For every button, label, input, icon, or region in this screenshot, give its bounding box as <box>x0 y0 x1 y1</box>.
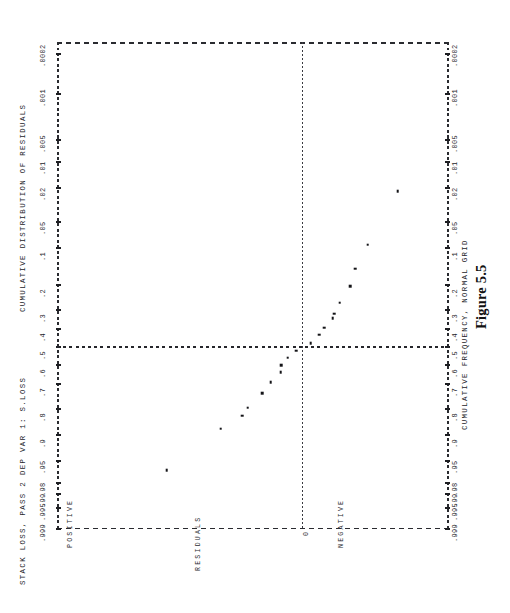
axis-tick-right-p995 <box>445 507 450 509</box>
axis-tick-left-p3 <box>56 309 61 311</box>
data-point <box>331 317 334 320</box>
median-reference-line <box>57 346 449 348</box>
axis-tick-left-p2 <box>56 284 61 286</box>
axis-tick-right-p8 <box>445 408 450 410</box>
data-point <box>241 414 244 417</box>
data-point <box>309 342 312 345</box>
tick-label-left-p9: .9 <box>40 439 47 448</box>
axis-tick-left-p4 <box>56 328 61 330</box>
axis-tick-right-p99 <box>445 493 450 495</box>
data-point <box>354 267 357 270</box>
tick-label-right-p0002: .0002 <box>452 44 459 67</box>
axis-tick-right-p2 <box>445 284 450 286</box>
axis-tick-right-p4 <box>445 328 450 330</box>
data-point <box>338 301 341 304</box>
tick-label-right-p4: .4 <box>452 333 459 342</box>
axis-tick-right-p01 <box>445 161 450 163</box>
tick-label-right-p02: .02 <box>452 187 459 201</box>
axis-tick-right-p001 <box>445 93 450 95</box>
tick-label-left-p7: .7 <box>40 388 47 397</box>
data-point <box>279 371 282 374</box>
tick-label-right-p2: .2 <box>452 289 459 298</box>
tick-label-left-p5: .5 <box>40 351 47 360</box>
tick-label-left-p95: .95 <box>40 460 47 474</box>
tick-label-right-p1: .1 <box>452 252 459 261</box>
plot-frame <box>57 42 449 529</box>
frame-top-edge <box>57 42 449 44</box>
data-point <box>295 349 298 352</box>
tick-label-left-p05: .05 <box>40 221 47 235</box>
right-axis-title: CUMULATIVE FREQUENCY, NORMAL GRID <box>462 239 469 430</box>
axis-tick-right-p9 <box>445 434 450 436</box>
axis-tick-right-p05 <box>445 221 450 223</box>
residual-label-zero: 0 <box>304 530 311 536</box>
axis-tick-left-p8 <box>56 408 61 410</box>
axis-tick-left-p7 <box>56 383 61 385</box>
data-point <box>318 334 321 337</box>
axis-tick-right-p999 <box>445 528 450 530</box>
tick-label-left-p2: .2 <box>40 289 47 298</box>
tick-label-left-p1: .1 <box>40 252 47 261</box>
axis-tick-right-p005 <box>445 139 450 141</box>
residual-label-positive: POSITIVE <box>68 499 75 548</box>
axis-tick-right-p6 <box>445 364 450 366</box>
tick-label-left-p999: .999 <box>40 524 47 542</box>
axis-tick-left-p98 <box>56 482 61 484</box>
axis-tick-left-p001 <box>56 93 61 95</box>
axis-tick-left-p005 <box>56 139 61 141</box>
axis-tick-right-p95 <box>445 460 450 462</box>
tick-label-left-p02: .02 <box>40 187 47 201</box>
tick-label-right-p5: .5 <box>452 351 459 360</box>
frame-bottom-edge <box>57 528 449 530</box>
axis-tick-right-p1 <box>445 247 450 249</box>
data-point <box>366 243 369 246</box>
axis-tick-right-p7 <box>445 383 450 385</box>
tick-label-left-p8: .8 <box>40 413 47 422</box>
axis-tick-left-p995 <box>56 507 61 509</box>
tick-label-left-p4: .4 <box>40 333 47 342</box>
data-point <box>247 406 250 409</box>
axis-tick-left-p1 <box>56 247 61 249</box>
figure-root: STACK LOSS, PASS 2 DEP VAR 1: S.LOSS CUM… <box>0 0 510 613</box>
axis-tick-left-p999 <box>56 528 61 530</box>
tick-label-right-p8: .8 <box>452 413 459 422</box>
axis-tick-right-p02 <box>445 187 450 189</box>
tick-label-left-p0002: .0002 <box>40 44 47 67</box>
axis-tick-left-p0002 <box>56 53 61 55</box>
tick-label-right-p95: .95 <box>452 460 459 474</box>
data-point <box>323 326 326 329</box>
tick-label-right-p9: .9 <box>452 439 459 448</box>
data-point <box>280 364 283 367</box>
tick-label-left-p001: .001 <box>40 89 47 107</box>
axis-tick-left-p01 <box>56 161 61 163</box>
axis-tick-left-p9 <box>56 434 61 436</box>
residual-label-negative: NEGATIVE <box>339 499 346 548</box>
axis-tick-left-p05 <box>56 221 61 223</box>
tick-label-right-p7: .7 <box>452 388 459 397</box>
left-axis-title: CUMULATIVE DISTRIBUTION OF RESIDUALS <box>20 104 27 312</box>
tick-label-right-p05: .05 <box>452 221 459 235</box>
data-point <box>349 285 352 288</box>
zero-residual-reference-line <box>302 42 303 529</box>
tick-label-left-p995: .995 <box>40 503 47 521</box>
figure-caption: Figure 5.5 <box>474 264 489 329</box>
axis-tick-right-p0002 <box>445 53 450 55</box>
data-point <box>333 312 336 315</box>
axis-tick-right-p98 <box>445 482 450 484</box>
axis-tick-right-p3 <box>445 309 450 311</box>
dataset-title: STACK LOSS, PASS 2 DEP VAR 1: S.LOSS <box>20 377 27 585</box>
axis-tick-left-p99 <box>56 493 61 495</box>
tick-label-left-p3: .3 <box>40 314 47 323</box>
axis-tick-left-p6 <box>56 364 61 366</box>
tick-label-right-p001: .001 <box>452 89 459 107</box>
tick-label-right-p3: .3 <box>452 314 459 323</box>
data-point <box>396 190 399 193</box>
tick-label-right-p999: .999 <box>452 524 459 542</box>
residuals-axis-title: RESIDUALS <box>196 516 203 571</box>
data-point <box>261 392 264 395</box>
tick-label-left-p01: .01 <box>40 161 47 175</box>
axis-tick-left-p02 <box>56 187 61 189</box>
tick-label-right-p6: .6 <box>452 369 459 378</box>
data-point <box>219 427 222 430</box>
tick-label-right-p005: .005 <box>452 135 459 153</box>
